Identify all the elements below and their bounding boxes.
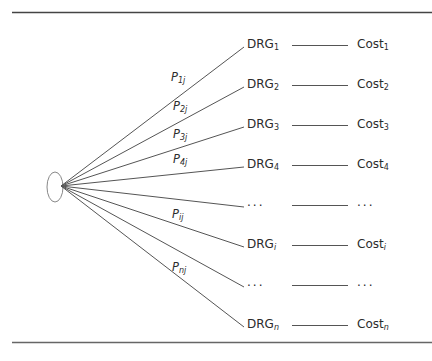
drg-subscript: n [274,323,279,332]
drg-subscript: 3 [274,123,279,132]
cost-subscript: n [384,323,389,332]
branch-line [61,186,244,207]
cost-label: Cost4 [357,157,389,175]
branch-line [61,167,244,186]
probability-subscript: 3j [180,133,187,142]
drg-label: DRG3 [247,117,279,135]
probability-subscript: 2j [180,105,187,114]
drg-subscript: i [274,243,276,252]
cost-subscript: 2 [384,83,389,92]
origin-node-ellipse [47,172,63,202]
drg-subscript: 2 [274,83,279,92]
branch-line [61,127,244,186]
drg-label: DRG4 [247,157,279,175]
branch-lines [61,47,244,327]
drg-subscript: 4 [274,163,279,172]
branch-line [61,186,244,287]
cost-subscript: 3 [384,123,389,132]
branch-line [61,87,244,186]
drg-label: ... [247,195,264,209]
probability-label: P3j [173,127,187,141]
probability-label: P1j [171,70,185,84]
cost-label: Costn [357,317,389,335]
probability-label: Pnj [172,260,186,274]
cost-label: Cost2 [357,77,389,95]
probability-label: Pij [172,207,183,221]
cost-label: ... [357,195,374,209]
drg-label: DRG1 [247,37,279,55]
drg-subscript: 1 [274,43,279,52]
drg-label: DRGn [247,317,279,335]
cost-subscript: i [384,243,386,252]
probability-subscript: 1j [178,76,185,85]
cost-label: Cost1 [357,37,389,55]
probability-subscript: 4j [180,158,187,167]
probability-label: P4j [173,152,187,166]
cost-connectors [292,46,348,326]
probability-subscript: nj [179,266,186,275]
cost-label: Cost3 [357,117,389,135]
cost-subscript: 4 [384,163,389,172]
probability-subscript: ij [179,213,183,222]
cost-subscript: 1 [384,43,389,52]
probability-label: P2j [173,99,187,113]
cost-label: Costi [357,237,386,255]
branch-line [61,186,244,327]
drg-label: ... [247,275,264,289]
decision-tree-diagram: DRG1Cost1DRG2Cost2DRG3Cost3DRG4Cost4....… [0,0,432,361]
drg-label: DRG2 [247,77,279,95]
branch-line [61,47,244,186]
cost-label: ... [357,275,374,289]
drg-label: DRGi [247,237,276,255]
branch-line [61,186,244,247]
